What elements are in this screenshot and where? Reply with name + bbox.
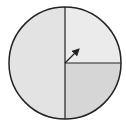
section-left-half [9, 7, 65, 119]
section-lower-right [65, 63, 121, 119]
spinner-diagram [0, 0, 126, 121]
spinner [9, 7, 121, 119]
